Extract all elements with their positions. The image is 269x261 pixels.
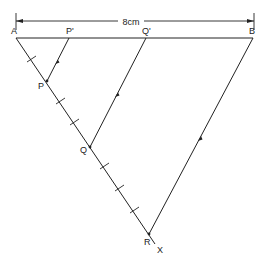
label-P-prime: P' (66, 26, 74, 36)
arrowhead-left-icon (16, 19, 23, 23)
arrowhead-right-icon (247, 19, 254, 23)
dimension-label: 8cm (122, 17, 139, 27)
label-Q-prime: Q' (142, 26, 151, 36)
segment-PP-prime (47, 38, 69, 81)
tick-mark-7 (130, 207, 139, 213)
ray-AX (16, 38, 155, 244)
point-P (46, 80, 49, 83)
label-B: B (249, 26, 255, 36)
label-P: P (38, 81, 44, 91)
label-X: X (157, 245, 163, 255)
label-R: R (144, 237, 151, 247)
construction-diagram: 8cm A B P' Q' P Q R X (0, 0, 269, 261)
point-R (148, 233, 151, 236)
point-dots (46, 80, 151, 236)
label-A: A (11, 26, 17, 36)
label-Q: Q (80, 145, 87, 155)
point-Q (89, 146, 92, 149)
